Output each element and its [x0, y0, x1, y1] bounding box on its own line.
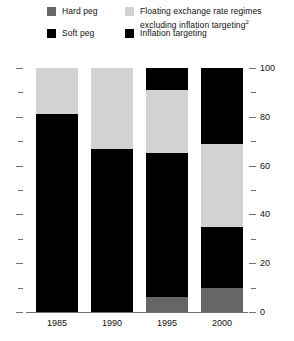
legend-swatch-soft-peg	[47, 29, 56, 38]
legend-label-inflation-targeting: Inflation targeting	[140, 28, 207, 39]
bar-segment	[201, 68, 243, 144]
x-axis-line	[26, 312, 248, 313]
bar-segment	[201, 288, 243, 312]
legend-label-soft-peg: Soft peg	[62, 28, 94, 39]
x-axis-label-1995: 1995	[137, 318, 197, 328]
legend-item-floating: Floating exchange rate regimes excluding…	[125, 6, 262, 30]
bar-1985	[36, 68, 78, 312]
y-axis-tick-label: 0	[260, 308, 265, 317]
y-axis-left-tick-major	[16, 166, 23, 167]
y-axis-tick-label: 100	[260, 64, 275, 73]
legend-item-inflation-targeting: Inflation targeting	[125, 28, 207, 39]
y-axis-left-tick-major	[16, 312, 23, 313]
bar-segment	[146, 68, 188, 90]
y-axis-left-tick-major	[16, 68, 23, 69]
legend-swatch-hard-peg	[47, 7, 56, 16]
y-axis-left-tick-major	[16, 214, 23, 215]
y-axis-right-tick-major	[249, 263, 256, 264]
bar-segment	[91, 68, 133, 149]
y-axis-left-tick-minor	[18, 190, 23, 191]
y-axis-right-tick-major	[249, 117, 256, 118]
y-axis-left-tick-minor	[18, 239, 23, 240]
bar-1995	[146, 68, 188, 312]
y-axis-tick-label: 20	[260, 259, 270, 268]
bar-1990	[91, 68, 133, 312]
bar-segment	[146, 153, 188, 297]
chart-legend: Hard peg Soft peg Floating exchange rate…	[0, 0, 294, 52]
y-axis-left-tick-minor	[18, 288, 23, 289]
legend-label-floating: Floating exchange rate regimes excluding…	[140, 6, 262, 30]
bar-segment	[146, 297, 188, 312]
legend-swatch-inflation-targeting	[125, 29, 134, 38]
bar-segment	[201, 144, 243, 227]
x-axis-label-2000: 2000	[192, 318, 252, 328]
y-axis-left-tick-minor	[18, 92, 23, 93]
y-axis-left-tick-major	[16, 263, 23, 264]
x-axis-label-1990: 1990	[82, 318, 142, 328]
y-axis-right-tick-minor	[251, 190, 256, 191]
bar-segment	[36, 68, 78, 114]
y-axis-tick-label: 60	[260, 162, 270, 171]
y-axis-right-tick-major	[249, 166, 256, 167]
y-axis-right-tick-minor	[251, 239, 256, 240]
y-axis-right-tick-major	[249, 312, 256, 313]
legend-item-soft-peg: Soft peg	[47, 28, 94, 39]
y-axis-right-tick-minor	[251, 141, 256, 142]
x-axis-label-1985: 1985	[27, 318, 87, 328]
y-axis-left-tick-major	[16, 117, 23, 118]
legend-item-hard-peg: Hard peg	[47, 6, 98, 17]
legend-label-floating-text: Floating exchange rate regimes excluding…	[140, 6, 262, 29]
bar-segment	[201, 227, 243, 288]
bar-segment	[146, 90, 188, 153]
y-axis-right-tick-minor	[251, 288, 256, 289]
bar-2000	[201, 68, 243, 312]
y-axis-right-tick-major	[249, 68, 256, 69]
bar-segment	[36, 114, 78, 312]
y-axis-tick-label: 40	[260, 210, 270, 219]
chart-plot: 020406080100 1985199019952000	[0, 52, 294, 341]
legend-footnote-marker: 2	[245, 19, 248, 25]
bar-segment	[91, 149, 133, 312]
legend-label-hard-peg: Hard peg	[62, 6, 98, 17]
y-axis-right-tick-minor	[251, 92, 256, 93]
y-axis-tick-label: 80	[260, 113, 270, 122]
y-axis-right-tick-major	[249, 214, 256, 215]
legend-swatch-floating	[125, 7, 134, 16]
y-axis-left-tick-minor	[18, 141, 23, 142]
